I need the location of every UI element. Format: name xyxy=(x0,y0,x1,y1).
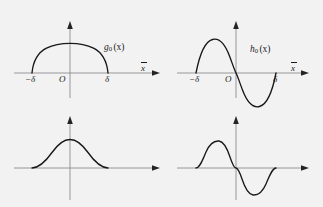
panel-h0: h0(x) −δ O δ x xyxy=(165,14,323,100)
x-axis-label-h0: x xyxy=(291,62,297,73)
x-axis-arrowhead xyxy=(301,70,309,76)
y-axis-arrowhead xyxy=(67,116,73,124)
plot-h0 xyxy=(165,14,323,100)
tick-label-delta-g0: δ xyxy=(105,75,109,84)
function-label-g0: g0(x) xyxy=(104,43,125,53)
x-axis-arrowhead xyxy=(152,165,160,171)
y-axis-arrowhead xyxy=(67,21,73,29)
tick-label-minus-delta-g0: −δ xyxy=(25,75,35,84)
plot-g0 xyxy=(0,14,170,100)
y-axis-arrowhead xyxy=(233,21,239,29)
clipped-caption-text: · · · · · · · · · · · · · · · · xyxy=(4,0,111,4)
plot-g1 xyxy=(0,110,170,202)
panel-g1: g1(x) −δ O δ x xyxy=(0,110,170,202)
function-label-h0: h0(x) xyxy=(250,45,271,55)
x-axis-arrowhead xyxy=(301,165,309,171)
x-axis-label-text: x xyxy=(291,63,295,73)
x-axis-label-text: x xyxy=(141,63,145,73)
tick-label-minus-delta-h0: −δ xyxy=(189,75,199,84)
function-argument: (x) xyxy=(113,42,124,52)
function-subscript: 0 xyxy=(109,45,113,52)
x-axis-label-g0: x xyxy=(141,62,147,73)
x-axis-arrowhead xyxy=(152,70,160,76)
origin-label-h0: O xyxy=(225,75,232,84)
panel-h1: h1(x) −δ O δ x xyxy=(165,110,323,202)
tick-label-delta-h0: δ xyxy=(273,75,277,84)
function-subscript: 0 xyxy=(255,47,259,54)
panel-g0: g0(x) −δ O δ x xyxy=(0,14,170,100)
function-argument: (x) xyxy=(259,44,270,54)
origin-label-g0: O xyxy=(59,75,66,84)
y-axis-arrowhead xyxy=(233,116,239,124)
figure-container: · · · · · · · · · · · · · · · · g0(x) −δ… xyxy=(0,0,323,207)
clipped-caption-strip: · · · · · · · · · · · · · · · · xyxy=(0,0,323,9)
plot-h1 xyxy=(165,110,323,202)
